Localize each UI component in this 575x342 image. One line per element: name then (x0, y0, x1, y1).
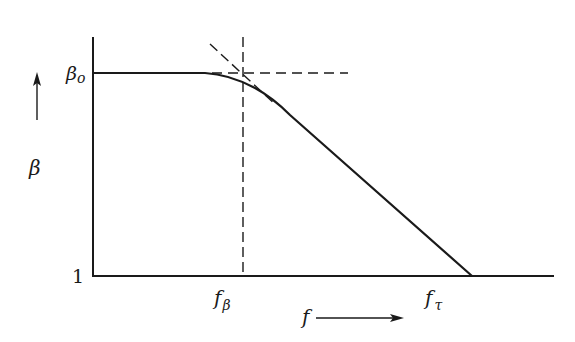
f-tau-tick-label: fτ (423, 286, 442, 313)
f-axis-label: f (300, 305, 313, 329)
beta-frequency-diagram: β βo 1 fβ fτ f (0, 0, 575, 342)
beta0-tick-label: βo (65, 62, 85, 86)
beta-response-curve (93, 73, 472, 276)
one-tick-label: 1 (72, 265, 84, 287)
beta-axis-label: β (28, 156, 41, 180)
f-beta-tick-label: fβ (212, 286, 231, 313)
